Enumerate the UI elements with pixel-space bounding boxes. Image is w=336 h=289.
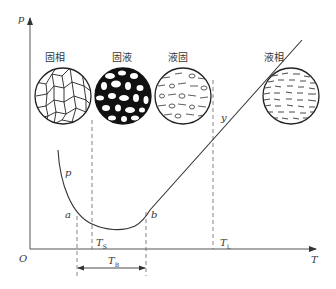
tl-main: T (220, 237, 227, 248)
phase-label-solid-liquid: 固液 (112, 53, 132, 63)
phase-label-liquid: 液相 (264, 53, 284, 63)
point-label-b: b (151, 210, 157, 220)
tb-sub: B (115, 261, 119, 268)
phase-label-liquid-solid: 液固 (168, 53, 188, 63)
point-label-a: a (65, 210, 71, 220)
temp-label-tb: TB (108, 256, 119, 268)
liquid-phase-circle (263, 68, 319, 124)
diagram-canvas (0, 0, 336, 289)
ts-sub: S (103, 243, 107, 250)
y-axis-label: p (18, 14, 24, 24)
phase-label-solid: 固相 (45, 53, 65, 63)
solid-liquid-circle (95, 68, 151, 124)
temp-label-ts: TS (96, 238, 107, 250)
liquid-solid-circle (155, 68, 211, 124)
temp-label-tl: TL (220, 238, 231, 250)
solid-phase-circle (35, 66, 92, 124)
curve-label-p: p (65, 168, 71, 178)
origin-label: O (19, 254, 27, 264)
tb-main: T (108, 255, 115, 266)
curve-label-y: y (221, 113, 227, 123)
ts-main: T (96, 237, 103, 248)
tl-sub: L (227, 243, 231, 250)
x-axis-label: T (311, 255, 318, 265)
